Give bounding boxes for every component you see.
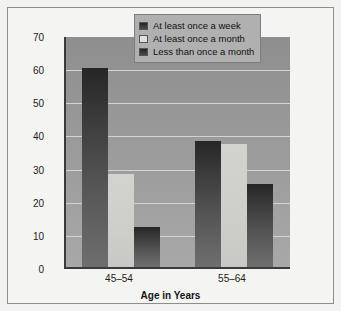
x-tick-55-64: 55–64	[218, 273, 246, 284]
y-tick-60: 60	[14, 65, 44, 76]
chart-figure: Percentage of Sexually Active Women 70 6…	[0, 0, 341, 311]
legend-item-weekly: At least once a week	[139, 19, 254, 32]
figure-frame: Percentage of Sexually Active Women 70 6…	[7, 7, 334, 304]
legend-label-monthly: At least once a month	[153, 33, 245, 44]
y-tick-20: 20	[14, 197, 44, 208]
bar-55-64-less-monthly	[247, 184, 273, 267]
bar-45-54-monthly	[108, 174, 134, 267]
y-tick-50: 50	[14, 98, 44, 109]
legend-swatch-icon-weekly	[139, 22, 148, 30]
bar-55-64-monthly	[221, 144, 247, 267]
y-tick-30: 30	[14, 164, 44, 175]
y-tick-0: 0	[14, 264, 44, 275]
y-tick-10: 10	[14, 230, 44, 241]
bar-55-64-weekly	[195, 141, 221, 267]
legend-label-weekly: At least once a week	[153, 20, 241, 31]
plot-area	[64, 37, 290, 269]
legend-item-monthly: At least once a month	[139, 32, 254, 45]
bar-45-54-weekly	[82, 68, 108, 267]
chart-legend: At least once a week At least once a mon…	[134, 14, 261, 63]
y-tick-70: 70	[14, 32, 44, 43]
y-tick-40: 40	[14, 131, 44, 142]
legend-label-less-monthly: Less than once a month	[153, 46, 254, 57]
x-tick-45-54: 45–54	[105, 273, 133, 284]
legend-swatch-icon-monthly	[139, 35, 148, 43]
bar-45-54-less-monthly	[134, 227, 160, 267]
legend-swatch-icon-less-monthly	[139, 48, 148, 56]
x-axis-title: Age in Years	[8, 290, 333, 301]
legend-item-less-monthly: Less than once a month	[139, 45, 254, 58]
